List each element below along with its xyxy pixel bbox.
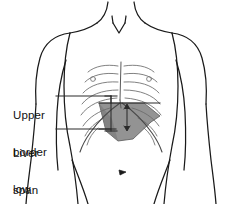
rib-right-1 (124, 65, 154, 72)
neck-left-edge (97, 2, 108, 23)
umbilicus-marker (119, 170, 126, 175)
nipple-left (91, 77, 96, 82)
liver-percussion-figure: Upper border low Liver span normal (0, 0, 242, 204)
rib-right-2 (124, 73, 157, 82)
sternal-notch (113, 23, 125, 33)
hip-crease-left (72, 160, 88, 204)
rib-left-2 (85, 73, 118, 82)
torso-right-flank (164, 33, 178, 204)
clavicle-right (145, 23, 172, 33)
annotation-liver-span-line-1: Liver (13, 147, 49, 159)
annotation-upper-border-line-1: Upper (13, 109, 47, 121)
umbilicus-icon (119, 170, 126, 175)
torso-left-flank (64, 33, 78, 204)
rib-left-3 (83, 82, 118, 93)
neck-right-edge (134, 2, 145, 23)
sternal-notch-right-tick (125, 16, 126, 23)
sternum (120, 62, 121, 100)
arm-right-outer (206, 104, 216, 204)
annotation-liver-span-line-2: span (13, 184, 49, 196)
clavicle-left (70, 23, 97, 33)
rib-right-4 (124, 90, 160, 104)
hip-crease-right (154, 160, 170, 204)
annotation-liver-span-normal: Liver span normal (13, 122, 49, 204)
rib-right-3 (124, 82, 159, 93)
rib-left-4 (82, 90, 118, 104)
nipple-right (147, 77, 152, 82)
rib-left-1 (88, 65, 118, 72)
sternal-notch-left-tick (112, 16, 113, 23)
